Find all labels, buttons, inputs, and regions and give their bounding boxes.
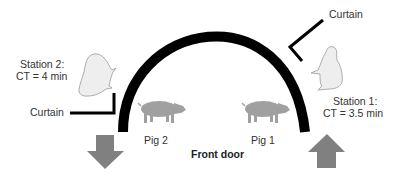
station-1-cycle-time: CT = 3.5 min [323, 107, 383, 120]
station-2-curtain-label: Curtain [30, 106, 64, 119]
pig-2-icon [138, 101, 186, 123]
station-1-worker-icon [311, 47, 342, 90]
station-1-curtain-label: Curtain [329, 8, 363, 21]
station-2-cycle-time: CT = 4 min [16, 70, 67, 83]
exit-arrow-down-icon [87, 135, 124, 169]
curtain-right-icon [290, 20, 323, 61]
front-door-label: Front door [191, 148, 244, 161]
pig-1-icon [242, 101, 290, 123]
entry-arrow-up-icon [308, 134, 345, 168]
pig-2-label: Pig 2 [144, 134, 168, 147]
station-2-worker-icon [79, 54, 116, 96]
pig-station-diagram: Station 2: CT = 4 min Curtain Curtain St… [0, 0, 400, 178]
pig-1-label: Pig 1 [251, 134, 275, 147]
